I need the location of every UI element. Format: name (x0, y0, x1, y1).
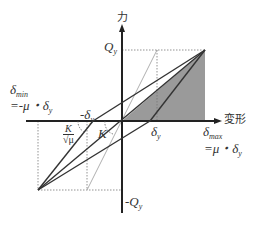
neg-delta-y-label: -δy (80, 108, 94, 124)
k-label: K (98, 127, 107, 140)
delta-max-eq-label: =μ・δy (204, 142, 242, 158)
y-axis-label: 力 (117, 12, 128, 23)
k-reduced-label: K √μ (63, 124, 74, 145)
qy-label: Qy (104, 40, 117, 56)
neg-qy-label: -Qy (125, 195, 142, 211)
delta-min-label: δmin (10, 83, 28, 99)
x-axis-arrow-icon (214, 118, 222, 124)
delta-y-label: δy (151, 125, 161, 141)
y-axis-arrow-icon (119, 24, 125, 32)
delta-min-eq-label: =-μ・δy (10, 99, 52, 115)
delta-max-label: δmax (203, 125, 222, 141)
x-axis-label: 変形 (224, 114, 246, 125)
